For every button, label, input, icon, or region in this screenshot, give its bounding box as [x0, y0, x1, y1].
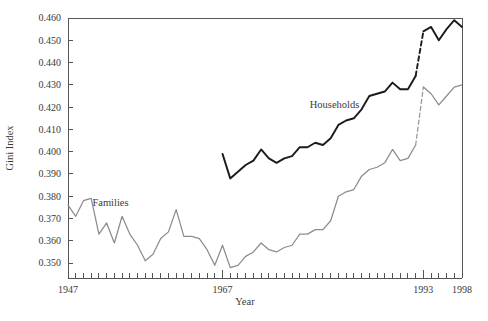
y-axis-tick-label: 0.450: [39, 35, 62, 46]
x-axis-tick-label-group: 1947196719931998: [58, 284, 472, 295]
series-line-families-post-1993-redesign: [423, 85, 462, 105]
series-line-households: [223, 76, 416, 178]
gini-index-line-chart: 0.4600.4500.4400.4300.4200.4100.4000.390…: [0, 0, 488, 321]
y-axis-tick-group: [68, 18, 73, 263]
y-axis-tick-label: 0.370: [39, 213, 62, 224]
y-axis-tick-label: 0.420: [39, 102, 62, 113]
x-axis-tick-label: 1967: [213, 284, 233, 295]
y-axis-tick-label: 0.430: [39, 79, 62, 90]
y-axis-tick-label: 0.360: [39, 235, 62, 246]
chart-container: 0.4600.4500.4400.4300.4200.4100.4000.390…: [0, 0, 488, 321]
y-axis-tick-label: 0.350: [39, 257, 62, 268]
series-label-families: Families: [92, 197, 128, 208]
y-axis-tick-label: 0.460: [39, 12, 62, 23]
plot-frame: [68, 18, 462, 278]
series-annotation-group: HouseholdsFamilies: [92, 99, 359, 208]
x-axis-tick-label: 1998: [452, 284, 472, 295]
series-label-households: Households: [310, 99, 360, 110]
series-line-households-post-1993-redesign: [423, 20, 462, 40]
y-axis-title: Gini Index: [4, 125, 15, 171]
series-line-households-break-bridge: [416, 31, 424, 76]
x-axis-tick-group: [68, 270, 462, 278]
x-axis-title: Year: [235, 296, 255, 307]
series-line-families-break-bridge: [416, 87, 424, 145]
y-axis-tick-label: 0.440: [39, 57, 62, 68]
series-group: [68, 20, 462, 267]
y-axis-tick-label: 0.400: [39, 146, 62, 157]
y-axis-tick-label: 0.410: [39, 124, 62, 135]
axis-frame: [68, 18, 462, 278]
y-axis-tick-label-group: 0.4600.4500.4400.4300.4200.4100.4000.390…: [39, 12, 62, 268]
y-axis-tick-label: 0.380: [39, 191, 62, 202]
x-axis-tick-label: 1993: [413, 284, 433, 295]
x-axis-tick-label: 1947: [58, 284, 78, 295]
y-axis-tick-label: 0.390: [39, 168, 62, 179]
